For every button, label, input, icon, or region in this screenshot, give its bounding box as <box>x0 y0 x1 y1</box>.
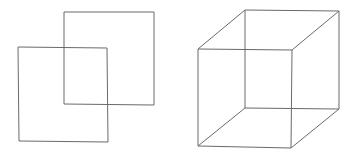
diagram-canvas <box>0 0 358 156</box>
cube-edge-bottom-right <box>291 109 339 148</box>
cube-edge-top-right <box>292 11 339 50</box>
cube-edge-bottom-left <box>198 108 245 146</box>
wireframe-cube-figure <box>198 10 339 148</box>
overlapping-squares-figure <box>18 12 154 142</box>
back-square <box>64 12 154 105</box>
cube-edge-top-left <box>198 10 245 49</box>
front-square <box>18 47 108 142</box>
